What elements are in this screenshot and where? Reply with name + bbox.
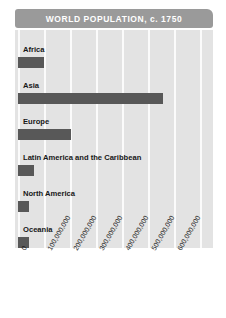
plot-area: AfricaAsiaEuropeLatin America and the Ca… [15,30,213,248]
bar-category-label: Europe [23,116,49,128]
bar [18,129,71,140]
bar-category-label: Oceania [23,224,53,236]
bar [18,93,163,104]
chart-title-banner: WORLD POPULATION, c. 1750 [15,9,213,28]
x-axis: 0100,000,000200,000,000300,000,000400,00… [15,248,213,318]
bar [18,201,29,212]
bar-row: Africa [15,44,213,80]
bar [18,57,44,68]
bar-category-label: North America [23,188,75,200]
bar-category-label: Latin America and the Caribbean [23,152,141,164]
bar-row: Latin America and the Caribbean [15,152,213,188]
bar-row: Europe [15,116,213,152]
bar [18,165,34,176]
bar-category-label: Asia [23,80,39,92]
bar-category-label: Africa [23,44,45,56]
world-population-bar-chart: WORLD POPULATION, c. 1750 AfricaAsiaEuro… [0,0,226,318]
bar-row: Asia [15,80,213,116]
chart-title: WORLD POPULATION, c. 1750 [46,14,182,24]
